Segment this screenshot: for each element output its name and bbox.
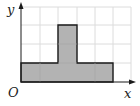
diagram-canvas: y x O: [0, 0, 140, 106]
shaded-region: [21, 25, 113, 82]
x-axis-arrow-icon: [129, 80, 136, 85]
y-axis-arrow-icon: [19, 2, 24, 9]
y-axis-label: y: [6, 2, 15, 17]
origin-label: O: [8, 85, 19, 100]
x-axis-label: x: [124, 86, 132, 101]
